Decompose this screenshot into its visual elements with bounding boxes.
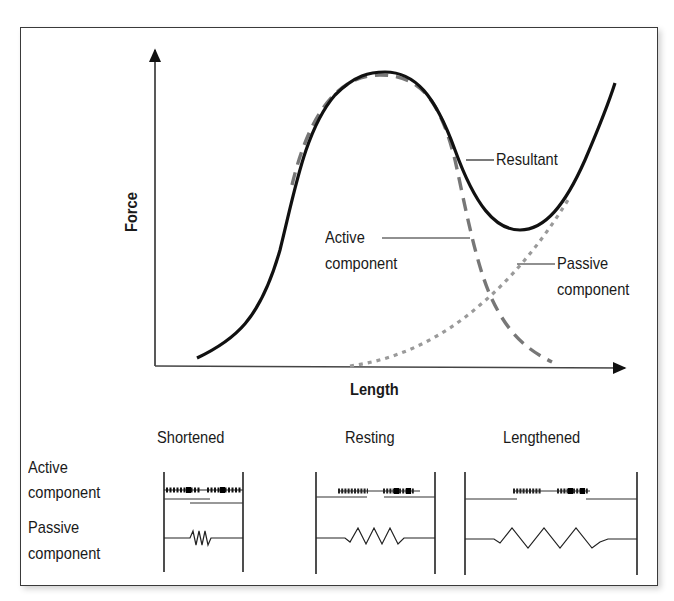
- active-component-label-line2: component: [325, 252, 397, 276]
- row-label-passive-line2: component: [28, 542, 100, 566]
- active-component-label-line1: Active: [325, 226, 365, 250]
- myosin-filament-icon: [164, 487, 243, 493]
- spring-resting-icon: [316, 528, 435, 544]
- active-component-curve: [292, 75, 552, 362]
- row-label-active-line2: component: [28, 481, 100, 505]
- spring-compressed-icon: [164, 531, 243, 545]
- x-axis-label: Length: [350, 380, 399, 400]
- resultant-curve: [197, 72, 615, 358]
- sarcomere-shortened: [164, 472, 243, 572]
- resultant-label: Resultant: [496, 148, 558, 172]
- spring-stretched-icon: [465, 528, 637, 548]
- myosin-filament-icon: [513, 488, 590, 494]
- passive-component-label-line1: Passive: [557, 252, 608, 276]
- column-label-shortened: Shortened: [157, 428, 224, 448]
- column-label-resting: Resting: [345, 428, 395, 448]
- sarcomere-resting: [316, 472, 435, 574]
- x-axis: [155, 366, 625, 368]
- myosin-filament-icon: [338, 488, 420, 494]
- y-axis-label: Force: [122, 192, 142, 232]
- column-label-lengthened: Lengthened: [503, 428, 580, 448]
- sarcomere-lengthened: [465, 472, 637, 575]
- passive-component-label-line2: component: [557, 278, 629, 302]
- row-label-active-line1: Active: [28, 456, 68, 480]
- row-label-passive-line1: Passive: [28, 516, 79, 540]
